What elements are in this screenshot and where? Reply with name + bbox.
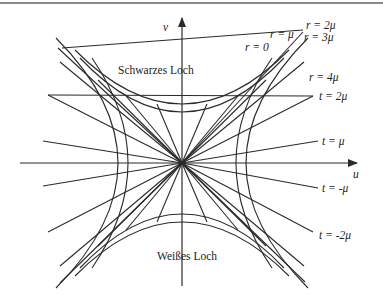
tm1-label: t = -μ xyxy=(322,182,349,195)
v-axis-label: v xyxy=(163,21,169,33)
r4-label: r = 4μ xyxy=(309,71,339,84)
t1-label: t = μ xyxy=(322,135,345,148)
kruskal-diagram: v u Schwarzes Loch Weißes Loch r = 0 r =… xyxy=(0,0,383,301)
u-axis-label: u xyxy=(353,168,359,180)
white-hole-label: Weißes Loch xyxy=(157,250,217,262)
black-hole-label: Schwarzes Loch xyxy=(118,64,194,76)
diagram-canvas: v u Schwarzes Loch Weißes Loch r = 0 r =… xyxy=(0,0,383,301)
r3-label: r = 3μ xyxy=(304,31,334,44)
tm2-label: t = -2μ xyxy=(319,229,351,242)
r0-label: r = 0 xyxy=(245,41,269,53)
t2-label: t = 2μ xyxy=(319,90,347,103)
r1-label: r = μ xyxy=(270,28,294,41)
